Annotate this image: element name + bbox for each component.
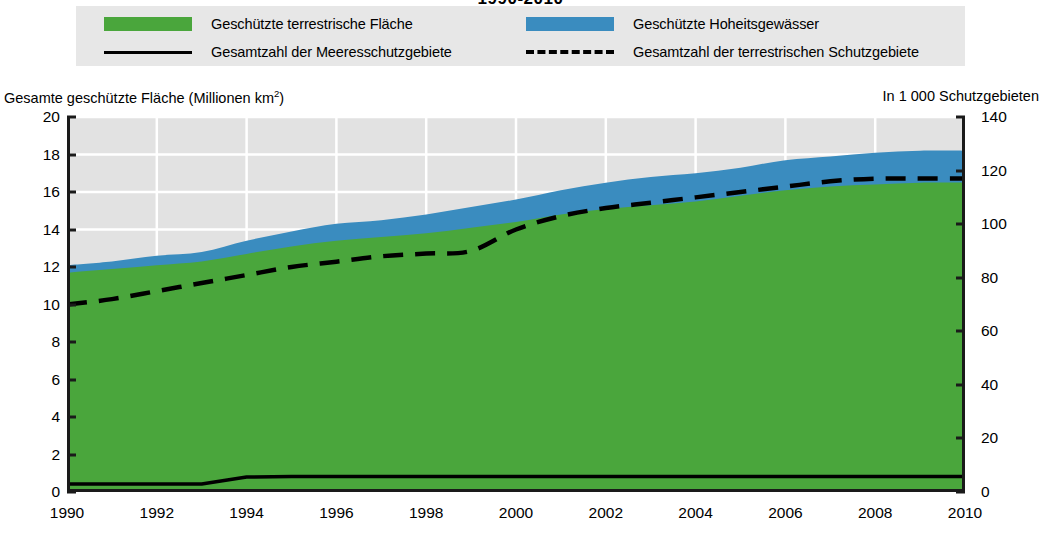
y-axis-tick-label-right: 60 (981, 322, 1031, 340)
legend-solid-line-icon (104, 51, 192, 54)
legend-row-1: Geschützte terrestrische Fläche Geschütz… (76, 10, 965, 38)
x-axis-tick-label: 1990 (50, 504, 84, 522)
y-axis-tick-mark-left (67, 266, 76, 269)
legend-label-terrestrial-area: Geschützte terrestrische Fläche (211, 16, 413, 32)
y-axis-tick-mark-right (956, 383, 965, 386)
y-axis-tick-mark-right (956, 169, 965, 172)
y-axis-tick-mark-left (67, 341, 76, 344)
left-axis-caption-text: Gesamte geschützte Fläche (Millionen km (4, 90, 274, 106)
y-axis-tick-mark-left (67, 228, 76, 231)
y-axis-tick-mark-left (67, 191, 76, 194)
x-axis-tick-label: 2006 (768, 504, 802, 522)
plot-area (67, 117, 965, 492)
x-axis-tick-label: 1998 (409, 504, 443, 522)
y-axis-tick-label-right: 20 (981, 429, 1031, 447)
y-axis-tick-mark-left (67, 491, 76, 494)
y-axis-tick-mark-right (956, 330, 965, 333)
y-axis-tick-mark-right (956, 116, 965, 119)
legend-item-terrestrial-area[interactable]: Geschützte terrestrische Fläche (76, 16, 504, 32)
y-axis-tick-mark-left (67, 153, 76, 156)
y-axis-tick-label-right: 100 (981, 215, 1031, 233)
y-axis-tick-mark-left (67, 116, 76, 119)
legend-swatch-blue-icon (526, 17, 614, 31)
y-axis-tick-label-left: 2 (14, 446, 60, 464)
x-axis-tick-label: 2004 (678, 504, 712, 522)
x-axis-tick-label: 1992 (140, 504, 174, 522)
x-axis-tick-label: 1996 (319, 504, 353, 522)
legend-label-marine-count: Gesamtzahl der Meeresschutzgebiete (211, 44, 452, 60)
y-axis-tick-label-right: 140 (981, 108, 1031, 126)
y-axis-tick-label-left: 16 (14, 183, 60, 201)
legend-item-marine-waters-area[interactable]: Geschützte Hoheitsgewässer (504, 16, 965, 32)
y-axis-tick-mark-left (67, 303, 76, 306)
legend-label-terrestrial-count: Gesamtzahl der terrestrischen Schutzgebi… (633, 44, 919, 60)
y-axis-tick-label-left: 10 (14, 296, 60, 314)
y-axis-tick-label-right: 120 (981, 162, 1031, 180)
y-axis-tick-mark-right (956, 276, 965, 279)
y-axis-tick-label-left: 18 (14, 146, 60, 164)
legend-item-marine-count[interactable]: Gesamtzahl der Meeresschutzgebiete (76, 44, 504, 60)
x-axis-tick-label: 2000 (499, 504, 533, 522)
left-axis-caption-tail: ) (279, 90, 284, 106)
y-axis-tick-label-left: 20 (14, 108, 60, 126)
x-axis-tick-label: 2010 (948, 504, 982, 522)
y-axis-tick-label-left: 14 (14, 221, 60, 239)
x-axis-tick-label: 2008 (858, 504, 892, 522)
y-axis-tick-mark-left (67, 416, 76, 419)
y-axis-tick-label-left: 0 (14, 483, 60, 501)
y-axis-tick-mark-right (956, 491, 965, 494)
y-axis-tick-label-right: 80 (981, 269, 1031, 287)
y-axis-tick-mark-left (67, 453, 76, 456)
plot-wrapper (67, 117, 965, 492)
x-axis-tick-label: 1994 (229, 504, 263, 522)
legend-label-marine-waters-area: Geschützte Hoheitsgewässer (633, 16, 819, 32)
right-axis-caption: In 1 000 Schutzgebieten (883, 88, 1039, 104)
y-axis-tick-mark-right (956, 223, 965, 226)
y-axis-tick-label-left: 6 (14, 371, 60, 389)
chart-legend: Geschützte terrestrische Fläche Geschütz… (76, 6, 965, 66)
left-axis-caption: Gesamte geschützte Fläche (Millionen km2… (4, 88, 284, 106)
y-axis-tick-label-left: 4 (14, 408, 60, 426)
legend-swatch-green-icon (104, 17, 192, 31)
plot-svg (67, 117, 965, 492)
y-axis-tick-label-left: 12 (14, 258, 60, 276)
y-axis-tick-mark-left (67, 378, 76, 381)
legend-item-terrestrial-count[interactable]: Gesamtzahl der terrestrischen Schutzgebi… (504, 44, 965, 60)
y-axis-tick-label-left: 8 (14, 333, 60, 351)
y-axis-tick-mark-right (956, 437, 965, 440)
y-axis-tick-label-right: 40 (981, 376, 1031, 394)
y-axis-tick-label-right: 0 (981, 483, 1031, 501)
legend-dashed-line-icon (526, 50, 614, 54)
x-axis-tick-label: 2002 (589, 504, 623, 522)
legend-row-2: Gesamtzahl der Meeresschutzgebiete Gesam… (76, 38, 965, 66)
